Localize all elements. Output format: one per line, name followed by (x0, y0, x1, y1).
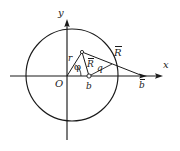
y-axis-label: y (58, 8, 64, 18)
label-r: r (68, 54, 72, 63)
figure-canvas (0, 0, 180, 151)
label-phi: φ (74, 62, 81, 72)
label-b: b (86, 82, 92, 91)
geometry-figure: x y O r φ R R q b b (0, 0, 180, 151)
label-b-outer-vector: b (139, 79, 145, 90)
origin-label: O (55, 79, 63, 89)
x-axis-label: x (163, 60, 169, 70)
main-circle (26, 29, 118, 121)
label-R-outer-vector: R (114, 46, 122, 58)
y-axis (64, 19, 69, 140)
label-q: q (97, 64, 103, 73)
label-R-vector: R (87, 58, 94, 69)
point-apex-marker (80, 50, 83, 53)
point-b-marker (87, 74, 91, 78)
